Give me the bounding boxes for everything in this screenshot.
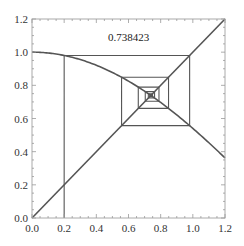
x-tick-label: 0.6 (122, 222, 136, 234)
x-tick-label: 0.2 (57, 222, 71, 234)
y-tick-label: 1.2 (14, 13, 28, 25)
y-tick-label: 1.0 (14, 46, 28, 58)
x-axis-tick-labels: 0.00.20.40.60.81.01.2 (25, 222, 232, 234)
y-axis-tick-labels: 0.00.20.40.60.81.01.2 (14, 13, 28, 224)
x-tick-label: 0.4 (89, 222, 103, 234)
identity-line (32, 19, 225, 218)
cos-curve (32, 52, 225, 158)
y-tick-label: 0.0 (14, 212, 28, 224)
y-tick-label: 0.6 (14, 113, 28, 125)
y-tick-label: 0.4 (14, 146, 28, 158)
y-tick-label: 0.2 (14, 179, 28, 191)
y-tick-label: 0.8 (14, 79, 28, 91)
fixed-point-annotation: 0.738423 (108, 31, 150, 43)
x-tick-label: 1.0 (186, 222, 200, 234)
cobweb-plot: 0.00.20.40.60.81.01.2 0.00.20.40.60.81.0… (0, 0, 244, 246)
plot-lines (32, 19, 225, 218)
x-tick-label: 1.2 (218, 222, 232, 234)
x-tick-label: 0.8 (154, 222, 168, 234)
